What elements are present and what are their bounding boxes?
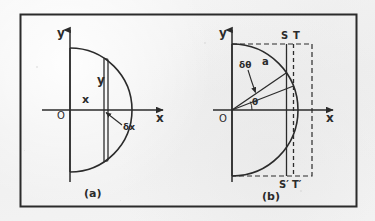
panel-b-radius-label: a [262,56,269,67]
panel-a-strip-height-label: y [97,73,105,87]
panel-a-x-axis-label: x [156,111,164,125]
panel-b-caption: (b) [262,190,280,203]
panel-b: y x O δθ a θ S T S′ T′ (b) [213,26,334,203]
panel-b-point-t-label: T [293,30,300,41]
panel-b-y-axis-label: y [219,26,227,40]
panel-b-origin-label: O [219,113,227,124]
panel-a-origin-label: O [57,110,65,121]
panel-b-point-t-prime-label: T′ [292,179,302,190]
panel-a: y x O y x δx (a) [42,26,164,200]
panel-b-delta-theta-leader [248,70,256,93]
panel-a-caption: (a) [84,187,101,200]
figure-page: y x O y x δx (a) [0,0,375,221]
panel-b-x-axis-label: x [326,111,334,125]
panel-b-angle-label: θ [252,97,258,107]
panel-a-y-axis-label: y [57,26,65,40]
panel-b-point-s-label: S [281,30,288,41]
figure-canvas: y x O y x δx (a) [0,0,375,221]
panel-b-point-s-prime-label: S′ [279,179,289,190]
panel-a-strip-width-label: δx [123,122,135,132]
panel-b-angle-increment-label: δθ [239,60,251,70]
panel-a-strip-abscissa-label: x [82,93,89,106]
